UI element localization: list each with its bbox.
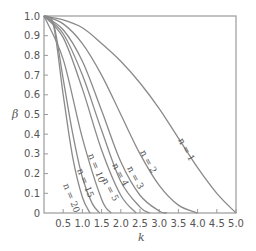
x-axis-ticks: 0.51.01.52.02.53.03.54.04.55.0 [55, 209, 244, 229]
x-tick-label: 1.5 [94, 218, 110, 229]
x-axis-label: k [138, 231, 145, 244]
x-tick-label: 3.0 [151, 218, 167, 229]
y-tick-label: 0.7 [24, 70, 40, 81]
x-tick-label: 2.5 [132, 218, 148, 229]
y-axis-label: β [11, 108, 18, 121]
y-tick-label: 0.6 [24, 89, 40, 100]
curve-n10 [44, 16, 111, 213]
curve-label: n = 2 [138, 148, 158, 175]
y-tick-label: 0.2 [24, 168, 40, 179]
x-tick-label: 5.0 [228, 218, 244, 229]
y-tick-label: 0.8 [24, 50, 40, 61]
curve-label: n = 1 [176, 136, 196, 163]
y-tick-label: 0.9 [24, 30, 40, 41]
x-tick-label: 4.5 [209, 218, 225, 229]
x-tick-label: 3.5 [170, 218, 186, 229]
curve-labels: n = 1n = 2n = 3n = 4n = 5n = 10n = 15n =… [61, 136, 197, 214]
y-tick-label: 0.5 [24, 109, 40, 120]
y-tick-label: 0 [34, 208, 40, 219]
oc-curve-chart: 00.10.20.30.40.50.60.70.80.91.0 0.51.01.… [0, 0, 256, 251]
y-tick-label: 1.0 [24, 11, 40, 22]
y-tick-label: 0.1 [24, 188, 40, 199]
x-tick-label: 4.0 [190, 218, 206, 229]
y-tick-label: 0.3 [24, 148, 40, 159]
x-tick-label: 0.5 [55, 218, 71, 229]
x-tick-label: 2.0 [113, 218, 129, 229]
x-tick-label: 1.0 [74, 218, 90, 229]
y-tick-label: 0.4 [24, 129, 40, 140]
